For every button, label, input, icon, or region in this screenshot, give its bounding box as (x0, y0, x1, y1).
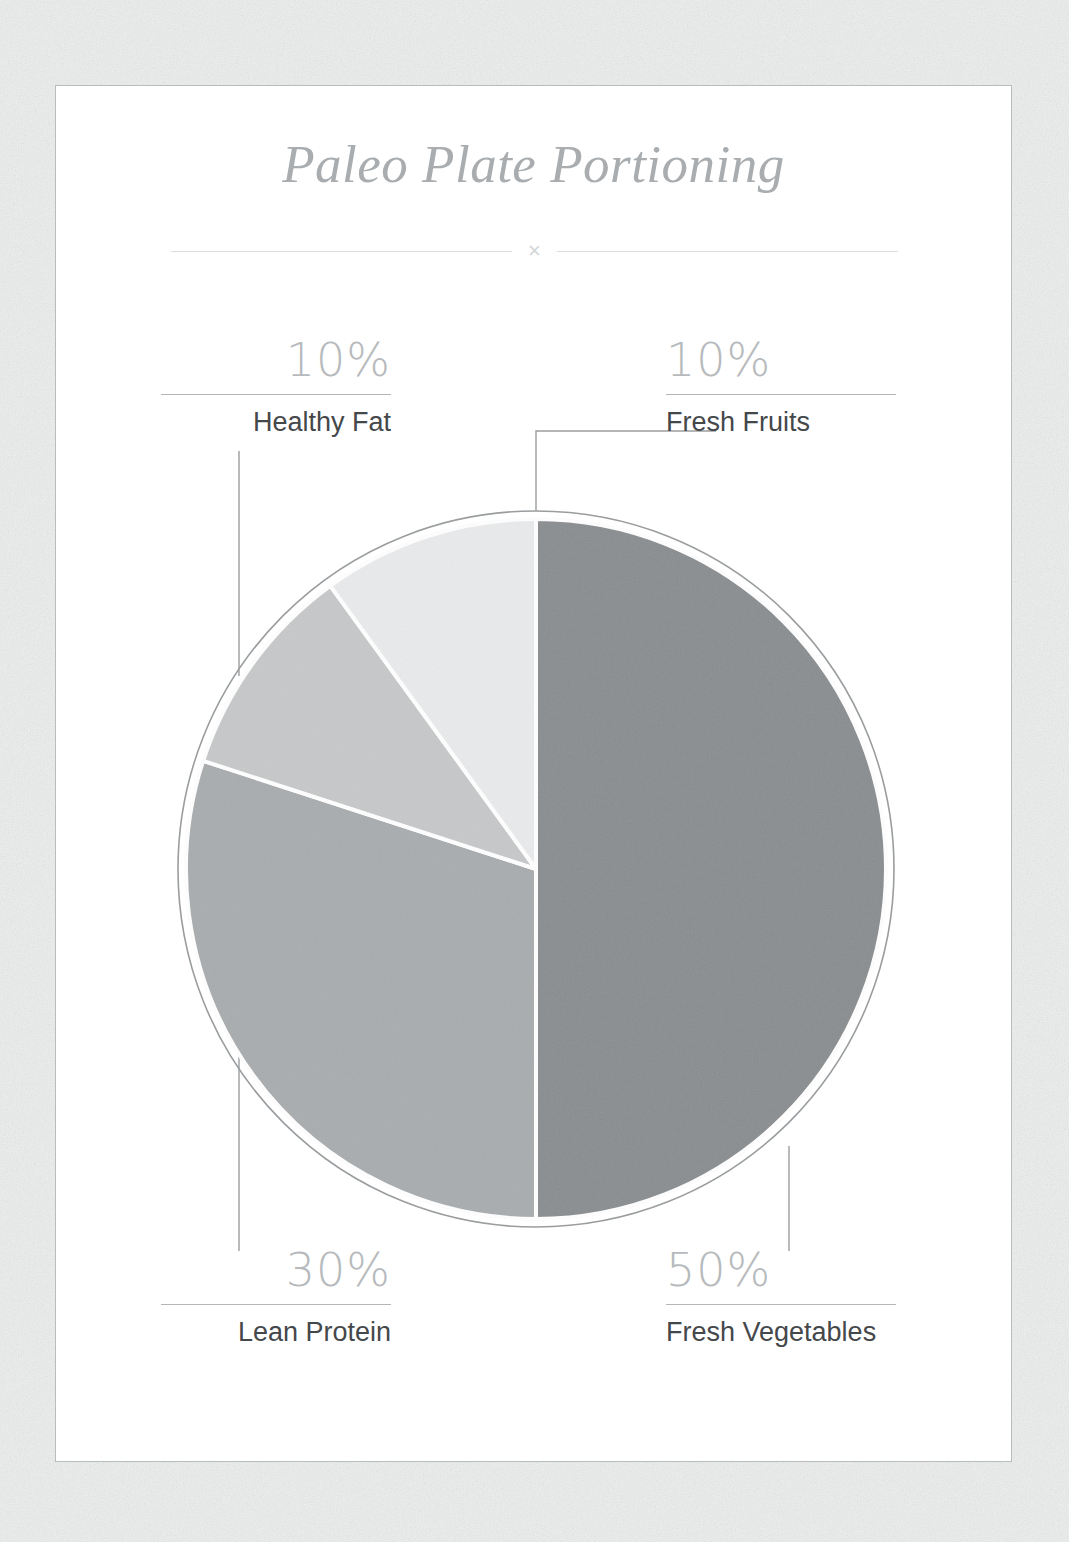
callout-label: Fresh Vegetables (666, 1317, 896, 1348)
callout-rule (161, 1304, 391, 1305)
callout-healthy-fat: 10% Healthy Fat (161, 336, 391, 438)
pie-slice-fresh-fruits (330, 519, 536, 869)
callout-percent: 50% (666, 1246, 896, 1294)
divider-rule-left (171, 251, 512, 252)
infographic-card: Paleo Plate Portioning × (55, 85, 1012, 1462)
cross-ornament-icon: × (528, 240, 541, 262)
callout-label: Healthy Fat (161, 407, 391, 438)
callout-fresh-vegetables: 50% Fresh Vegetables (666, 1246, 896, 1348)
callout-percent: 10% (666, 336, 896, 384)
title-divider: × (171, 241, 898, 261)
callout-rule (666, 1304, 896, 1305)
leader-lines (239, 431, 789, 1251)
callout-rule (666, 394, 896, 395)
callout-percent: 10% (161, 336, 391, 384)
callout-label: Fresh Fruits (666, 407, 896, 438)
callout-rule (161, 394, 391, 395)
callout-label: Lean Protein (161, 1317, 391, 1348)
divider-rule-right (557, 251, 898, 252)
callout-percent: 30% (161, 1246, 391, 1294)
callout-lean-protein: 30% Lean Protein (161, 1246, 391, 1348)
pie-outline-ring (178, 511, 894, 1227)
page-title: Paleo Plate Portioning (56, 134, 1011, 194)
callout-fresh-fruits: 10% Fresh Fruits (666, 336, 896, 438)
pie-slices (186, 519, 886, 1219)
pie-slice-healthy-fat (203, 586, 536, 869)
leader-line-fresh-fruits (536, 431, 716, 511)
pie-slice-lean-protein (186, 761, 536, 1219)
pie-slice-fresh-vegetables (536, 519, 886, 1219)
